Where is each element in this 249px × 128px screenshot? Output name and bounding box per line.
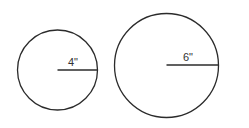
diagram-canvas: 4" 6"	[0, 0, 249, 128]
large-circle-radius-label: 6"	[183, 51, 193, 63]
small-circle-radius-label: 4"	[68, 56, 78, 68]
small-circle-group: 4"	[18, 30, 98, 110]
large-circle-group: 6"	[115, 14, 219, 118]
